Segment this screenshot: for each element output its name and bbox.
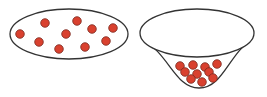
particle-dot — [213, 60, 222, 69]
particle-dot — [41, 19, 50, 28]
particle-dot — [16, 30, 25, 39]
particle-dot — [73, 17, 82, 26]
particle-dot — [81, 43, 90, 52]
right-container — [140, 9, 254, 88]
particle-dot — [88, 25, 97, 34]
particle-dot — [209, 74, 218, 83]
particle-dot — [35, 38, 44, 47]
particle-dot — [189, 61, 198, 70]
particle-dot — [187, 75, 196, 84]
particle-dot — [62, 30, 71, 39]
particle-dot — [109, 24, 118, 33]
particle-dot — [102, 37, 111, 46]
left-container — [10, 9, 128, 59]
particle-dot — [55, 45, 64, 54]
particle-dot — [198, 78, 207, 87]
left-dots — [16, 17, 118, 54]
particle-dot — [181, 68, 190, 77]
funnel-rim — [140, 9, 254, 57]
diagram — [0, 0, 267, 97]
